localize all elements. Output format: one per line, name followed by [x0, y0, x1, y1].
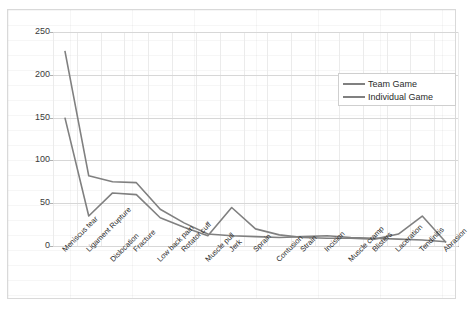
chart-legend[interactable]: Team Game Individual Game — [338, 73, 456, 106]
legend-swatch-individual-game — [343, 96, 365, 98]
y-tick-label: 150 — [14, 113, 50, 122]
legend-item-individual-game[interactable]: Individual Game — [343, 90, 451, 103]
x-gridline — [458, 32, 459, 246]
x-axis-tick-labels: Meniscus tearLigament RuptureDislocation… — [53, 248, 463, 306]
series-line-individual-game — [65, 118, 446, 243]
y-tick-label: 200 — [14, 70, 50, 79]
plot-area — [53, 32, 458, 246]
y-tick-mark — [50, 246, 53, 247]
y-tick-label: 50 — [14, 198, 50, 207]
y-tick-mark — [50, 75, 53, 76]
legend-swatch-team-game — [343, 83, 365, 85]
y-tick-label: 0 — [14, 241, 50, 250]
legend-item-team-game[interactable]: Team Game — [343, 77, 451, 90]
y-tick-label: 250 — [14, 27, 50, 36]
y-tick-mark — [50, 203, 53, 204]
y-tick-mark — [50, 32, 53, 33]
y-tick-mark — [50, 160, 53, 161]
series-lines — [53, 32, 458, 246]
chart-frame: 050100150200250 Meniscus tearLigament Ru… — [7, 9, 456, 299]
y-tick-mark — [50, 118, 53, 119]
y-tick-label: 100 — [14, 155, 50, 164]
legend-label-individual-game: Individual Game — [368, 92, 433, 102]
legend-label-team-game: Team Game — [368, 79, 417, 89]
y-axis-tick-labels: 050100150200250 — [8, 10, 50, 300]
